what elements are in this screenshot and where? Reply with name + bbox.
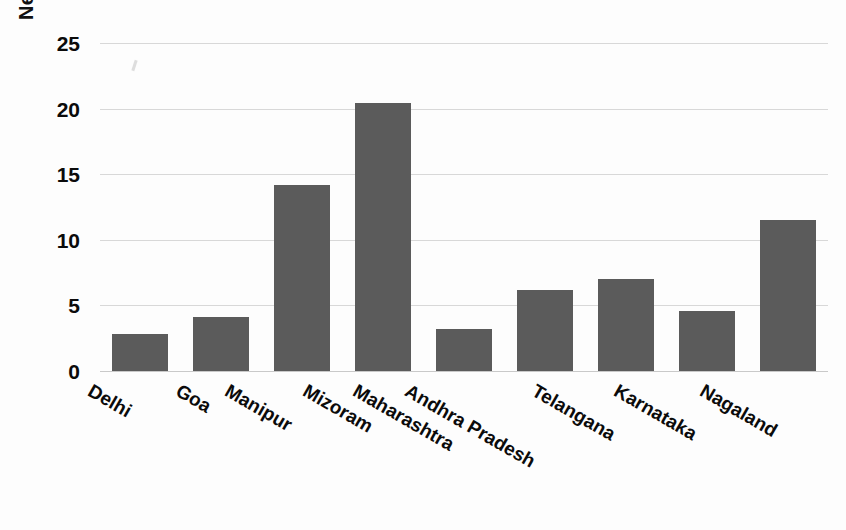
y-tick-label-5: 5 (68, 295, 80, 316)
y-axis-title: New cases per 10000 (8, 0, 44, 83)
bar-manipur[interactable] (274, 185, 330, 371)
plot-area (100, 43, 828, 371)
y-tick-label-10: 10 (57, 229, 80, 250)
x-axis-tick-labels: DelhiGoaManipurMizoramMaharashtraAndhra … (100, 374, 828, 524)
x-tick-label-goa: Goa (172, 380, 215, 418)
bar-nagaland[interactable] (760, 220, 816, 371)
y-tick-label-15: 15 (57, 164, 80, 185)
y-axis-tick-labels: 0510152025 (44, 43, 90, 371)
y-tick-label-25: 25 (57, 33, 80, 54)
bar-andhra-pradesh[interactable] (517, 290, 573, 371)
bars-group (100, 43, 828, 371)
bar-maharashtra[interactable] (436, 329, 492, 371)
bar-mizoram[interactable] (355, 103, 411, 371)
bar-delhi[interactable] (112, 334, 168, 371)
y-tick-label-20: 20 (57, 98, 80, 119)
y-tick-label-0: 0 (68, 361, 80, 382)
bar-telangana[interactable] (598, 279, 654, 371)
x-tick-label-telangana: Telangana (528, 380, 619, 445)
x-tick-label-manipur: Manipur (221, 380, 296, 436)
bar-chart-figure: New cases per 10000 0510152025 DelhiGoaM… (0, 0, 846, 530)
x-tick-label-nagaland: Nagaland (696, 380, 781, 442)
gridline-0 (100, 371, 828, 372)
bar-goa[interactable] (193, 317, 249, 371)
x-tick-label-delhi: Delhi (84, 380, 135, 422)
bar-karnataka[interactable] (679, 311, 735, 371)
x-tick-label-karnataka: Karnataka (610, 380, 701, 445)
